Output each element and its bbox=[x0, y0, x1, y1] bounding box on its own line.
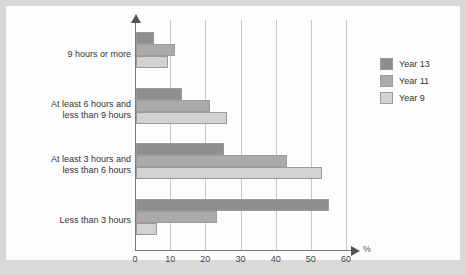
bar bbox=[136, 88, 182, 100]
y-axis-arrow-icon bbox=[131, 14, 141, 23]
category-label: 9 hours or more bbox=[13, 49, 131, 60]
x-axis-tick-label: 20 bbox=[200, 254, 210, 264]
legend-label: Year 9 bbox=[399, 92, 425, 104]
legend-swatch-icon bbox=[380, 75, 393, 87]
bar bbox=[136, 211, 217, 223]
category-label: At least 6 hours and less than 9 hours bbox=[13, 99, 131, 121]
x-axis-unit-label: % bbox=[363, 244, 371, 254]
chart-legend: Year 13Year 11Year 9 bbox=[380, 56, 430, 107]
x-axis-tick-label: 0 bbox=[132, 254, 137, 264]
plot-area bbox=[135, 28, 346, 250]
x-axis-tick-label: 10 bbox=[165, 254, 175, 264]
legend-label: Year 11 bbox=[399, 75, 429, 87]
x-axis-line bbox=[135, 250, 351, 251]
bar bbox=[136, 44, 175, 56]
bar bbox=[136, 100, 210, 112]
gridline bbox=[346, 20, 347, 250]
category-label: Less than 3 hours bbox=[13, 215, 131, 226]
x-axis-arrow-icon bbox=[351, 246, 360, 256]
chart-panel: 9 hours or moreAt least 6 hours and less… bbox=[6, 6, 460, 260]
bar bbox=[136, 112, 227, 124]
x-axis-tick-label: 40 bbox=[271, 254, 281, 264]
page-background: 9 hours or moreAt least 6 hours and less… bbox=[0, 0, 466, 275]
legend-swatch-icon bbox=[380, 92, 393, 104]
bar bbox=[136, 56, 168, 68]
bar bbox=[136, 143, 224, 155]
legend-label: Year 13 bbox=[399, 58, 430, 70]
x-axis-tick-label: 60 bbox=[341, 254, 351, 264]
bar bbox=[136, 223, 157, 235]
bar bbox=[136, 199, 329, 211]
legend-item[interactable]: Year 9 bbox=[380, 90, 430, 105]
bar bbox=[136, 155, 287, 167]
legend-swatch-icon bbox=[380, 58, 393, 70]
x-axis-tick-label: 30 bbox=[235, 254, 245, 264]
bar bbox=[136, 32, 154, 44]
legend-item[interactable]: Year 13 bbox=[380, 56, 430, 71]
bar bbox=[136, 167, 322, 179]
x-axis-tick-label: 50 bbox=[306, 254, 316, 264]
legend-item[interactable]: Year 11 bbox=[380, 73, 430, 88]
category-label: At least 3 hours and less than 6 hours bbox=[13, 154, 131, 176]
